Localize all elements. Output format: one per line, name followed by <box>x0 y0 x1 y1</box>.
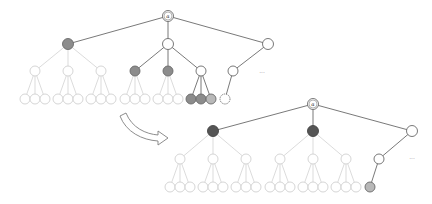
top-tree: α ... <box>20 11 274 105</box>
bottom-left-child-node <box>208 126 219 137</box>
bottom-ellipsis: ... <box>409 153 415 160</box>
bottom-middle-child-node <box>308 126 319 137</box>
bottom-leaves <box>165 182 375 192</box>
bottom-right-child-node <box>407 126 418 137</box>
top-right-child-node <box>263 39 274 50</box>
top-left-child-node <box>63 39 74 50</box>
top-left-leaves <box>20 94 183 104</box>
tree-transition-diagram: α ... <box>0 0 432 204</box>
top-ellipsis: ... <box>259 67 265 74</box>
transition-arrow-icon <box>120 113 168 145</box>
bottom-tree: α ... <box>165 99 418 193</box>
top-expanded-leaves <box>186 94 230 104</box>
top-middle-child-node <box>163 39 174 50</box>
